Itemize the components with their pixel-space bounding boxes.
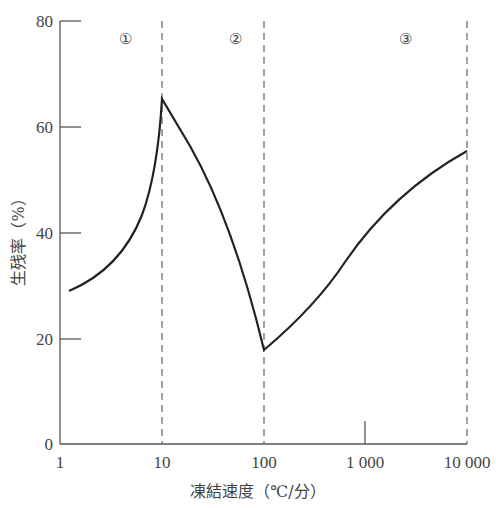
- x-tick-1: 1: [56, 453, 65, 472]
- y-tick-60: 60: [36, 118, 53, 137]
- y-tick-20: 20: [36, 330, 53, 349]
- x-tick-1000: 1 000: [346, 453, 384, 472]
- survival-rate-chart: 80 60 40 20 0 1 10 100 1 000 10 000 ① ② …: [0, 0, 496, 508]
- y-tick-labels: 80 60 40 20 0: [36, 12, 53, 454]
- x-tick-labels: 1 10 100 1 000 10 000: [56, 453, 491, 472]
- y-tick-0: 0: [45, 435, 54, 454]
- region-dividers: [162, 21, 467, 444]
- y-tick-40: 40: [36, 224, 53, 243]
- y-tick-80: 80: [36, 12, 53, 31]
- y-axis-title: 生残率（%）: [9, 190, 28, 285]
- region-1-label: ①: [119, 30, 132, 48]
- survival-curve: [69, 99, 467, 350]
- region-2-label: ②: [229, 30, 242, 48]
- x-axis-title: 凍結速度（℃/分）: [190, 482, 325, 501]
- region-3-label: ③: [399, 30, 412, 48]
- x-tick-10000: 10 000: [444, 453, 491, 472]
- x-tick-10: 10: [154, 453, 171, 472]
- x-tick-100: 100: [251, 453, 277, 472]
